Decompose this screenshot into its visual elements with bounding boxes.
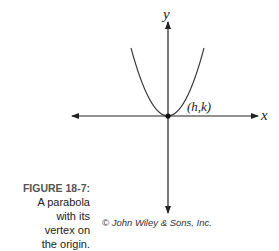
figure-caption-line: vertex on [45,223,90,237]
x-axis-label: x [261,107,268,124]
figure-caption-line: A parabola [37,195,90,209]
y-axis-label: y [163,6,170,23]
figure-caption-line: the origin. [42,237,90,251]
copyright-credit: © John Wiley & Sons, Inc. [102,217,212,228]
figure-caption-line: with its [56,209,90,223]
vertex-label: (h,k) [187,99,211,115]
vertex-point [165,113,170,118]
figure-label: FIGURE 18-7: [23,181,90,195]
